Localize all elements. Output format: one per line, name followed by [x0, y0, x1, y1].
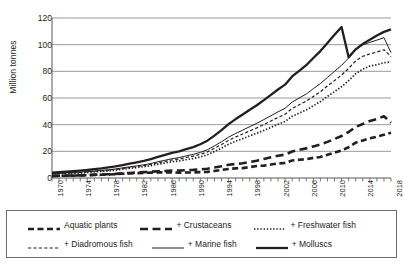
legend-label: Aquatic plants	[64, 220, 117, 230]
chart-legend: Aquatic plants+ Crustaceans+ Freshwater …	[6, 210, 397, 258]
plot-svg	[0, 0, 403, 196]
legend-item[interactable]: + Diadromous fish	[27, 239, 133, 249]
series-line-aquatic-plants	[52, 133, 391, 176]
x-tick-label: 1970	[56, 180, 65, 197]
x-tick-label: 1982	[140, 180, 149, 197]
x-tick-label: 1974	[84, 180, 93, 197]
legend-row: Aquatic plants+ Crustaceans+ Freshwater …	[7, 215, 396, 234]
aquaculture-production-chart: Million tonnes 020406080100120 197019741…	[0, 0, 403, 263]
legend-row: + Diadromous fish+ Marine fish+ Molluscs	[7, 234, 396, 253]
x-tick-label: 1994	[225, 180, 234, 197]
legend-swatch-icon	[27, 239, 61, 249]
x-tick-label: 2006	[310, 180, 319, 197]
legend-label: + Diadromous fish	[64, 239, 133, 249]
legend-item[interactable]: Aquatic plants	[27, 220, 117, 230]
legend-label: + Marine fish	[188, 239, 237, 249]
x-tick-label: 2010	[338, 180, 347, 197]
series-line-crustaceans	[52, 116, 391, 176]
legend-label: + Molluscs	[292, 239, 332, 249]
x-tick-label: 1986	[169, 180, 178, 197]
legend-item[interactable]: + Crustaceans	[139, 220, 231, 230]
x-tick-label: 2002	[282, 180, 291, 197]
series-line-freshwater-fish	[52, 62, 391, 174]
legend-swatch-icon	[151, 239, 185, 249]
x-tick-label: 1998	[253, 180, 262, 197]
legend-label: + Crustaceans	[176, 220, 231, 230]
series-line-diadromous-fish	[52, 50, 391, 174]
plot-area: Million tonnes 020406080100120	[0, 0, 403, 196]
legend-item[interactable]: + Molluscs	[255, 239, 332, 249]
legend-swatch-icon	[253, 220, 287, 230]
legend-swatch-icon	[139, 220, 173, 230]
x-tick-label: 1990	[197, 180, 206, 197]
x-tick-label: 2018	[395, 180, 403, 197]
x-tick-label: 1978	[112, 180, 121, 197]
legend-label: + Freshwater fish	[290, 220, 355, 230]
legend-item[interactable]: + Marine fish	[151, 239, 237, 249]
x-axis-tick-labels: 1970197419781982198619901994199820022006…	[0, 178, 403, 210]
x-tick-label: 2014	[366, 180, 375, 197]
legend-item[interactable]: + Freshwater fish	[253, 220, 355, 230]
series-line-marine-fish	[52, 38, 391, 174]
legend-swatch-icon	[27, 220, 61, 230]
legend-swatch-icon	[255, 239, 289, 249]
